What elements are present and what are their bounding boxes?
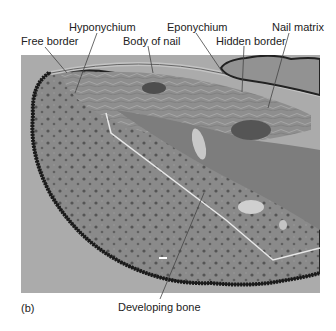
label-body-of-nail: Body of nail bbox=[123, 36, 180, 47]
label-eponychium: Eponychium bbox=[167, 22, 228, 33]
leader-lines bbox=[0, 0, 336, 331]
label-developing-bone: Developing bone bbox=[118, 302, 201, 313]
label-hidden-border: Hidden border bbox=[216, 36, 286, 47]
label-free-border: Free border bbox=[21, 36, 78, 47]
panel-label: (b) bbox=[21, 303, 34, 314]
label-hyponychium: Hyponychium bbox=[69, 22, 136, 33]
label-nail-matrix: Nail matrix bbox=[272, 22, 324, 33]
